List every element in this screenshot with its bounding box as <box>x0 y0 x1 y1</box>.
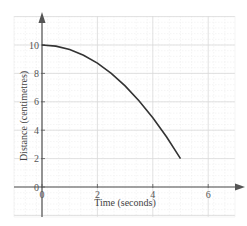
y-tick-label: 2 <box>34 153 39 164</box>
distance-time-chart: 0246 0246810 Time (seconds) Distance (ce… <box>0 0 247 226</box>
x-tick-label: 0 <box>40 189 45 200</box>
y-axis-label: Distance (centimetres) <box>18 71 30 161</box>
axes <box>14 12 245 217</box>
x-axis-arrow-icon <box>235 184 245 191</box>
y-tick-label: 6 <box>34 96 39 107</box>
y-axis-arrow-icon <box>39 12 46 23</box>
x-axis-label: Time (seconds) <box>94 197 156 209</box>
y-tick-label: 8 <box>34 68 39 79</box>
y-tick-label: 10 <box>29 40 39 51</box>
y-tick-label: 4 <box>34 125 39 136</box>
y-tick-label: 0 <box>34 182 39 193</box>
x-tick-label: 6 <box>206 189 211 200</box>
